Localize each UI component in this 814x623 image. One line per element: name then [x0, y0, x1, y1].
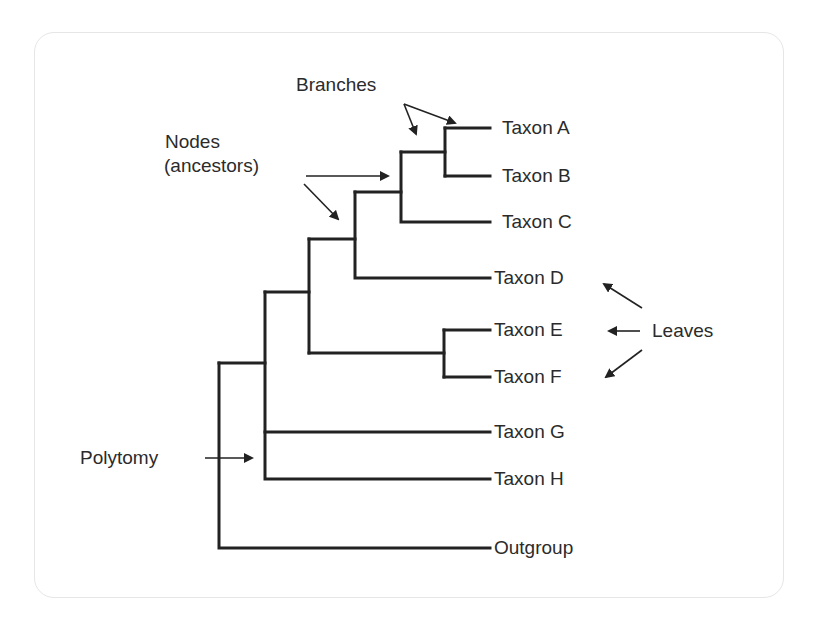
phylogenetic-tree [0, 0, 814, 623]
arrow-branches-right [404, 104, 455, 123]
annotation-branches: Branches [296, 74, 376, 96]
node-abc-d [355, 192, 490, 278]
leaf-taxon-a: Taxon A [502, 117, 570, 139]
arrow-nodes-diag [304, 184, 338, 219]
annotation-leaves: Leaves [652, 320, 713, 342]
leaf-taxon-f: Taxon F [494, 366, 562, 388]
leaf-taxon-c: Taxon C [502, 211, 572, 233]
annotation-nodes-ancestors: (ancestors) [164, 155, 259, 177]
annotation-arrows [205, 104, 642, 458]
arrow-leaves-f [606, 350, 642, 377]
leaf-taxon-d: Taxon D [494, 267, 564, 289]
leaf-taxon-b: Taxon B [502, 165, 571, 187]
annotation-nodes: Nodes [165, 131, 220, 153]
root-branch [219, 363, 490, 548]
leaf-taxon-e: Taxon E [494, 319, 563, 341]
arrow-leaves-d [604, 284, 642, 308]
leaf-outgroup: Outgroup [494, 537, 573, 559]
tree-branches [219, 128, 490, 548]
annotation-polytomy: Polytomy [80, 447, 158, 469]
polytomy-node [265, 292, 490, 479]
leaf-taxon-h: Taxon H [494, 468, 564, 490]
leaf-taxon-g: Taxon G [494, 421, 565, 443]
